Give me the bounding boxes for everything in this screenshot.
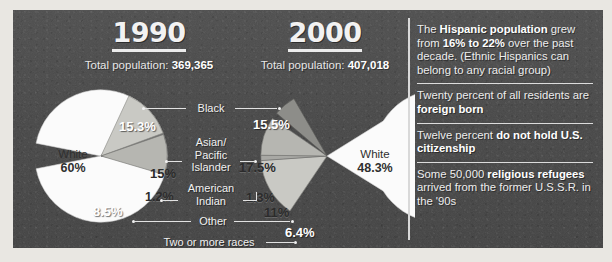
fact-religious-refugees: Some 50,000 religious refugees arrived f… xyxy=(417,162,593,215)
fact-text: The xyxy=(417,23,440,35)
pie-1990-american-indian-value: 1.2% xyxy=(145,191,174,204)
pie-2000-asian-value: 17.5% xyxy=(239,161,276,174)
fact-hispanic-population: The Hispanic population grew from 16% to… xyxy=(417,18,593,83)
american-indian-label-line1: American xyxy=(188,182,234,194)
leader-asian-right xyxy=(240,161,254,162)
pie-2000-white-label: White 48.3% xyxy=(339,148,411,175)
fact-text: Twelve percent xyxy=(417,129,496,141)
pie-2000-white-value: 48.3% xyxy=(357,161,392,175)
pie-1990-white-name: White xyxy=(58,148,87,160)
category-label-asian-pacific-islander: Asian/ Pacific Islander xyxy=(182,136,240,174)
pie-1990-black-value: 15.3% xyxy=(119,120,156,133)
leader-black-right xyxy=(235,108,277,109)
fact-text: arrived from the former U.S.S.R. in the … xyxy=(417,181,591,207)
pie-1990-asian-value: 15% xyxy=(150,167,176,180)
leader-american-indian-right xyxy=(243,200,257,201)
leader-other-right xyxy=(234,221,290,222)
leader-dot-other-right xyxy=(291,220,294,223)
pie-2000-other-value: 11% xyxy=(264,206,289,219)
category-label-black: Black xyxy=(191,102,231,115)
fact-emphasis: 16% to 22% xyxy=(443,37,505,49)
leader-asian-left xyxy=(168,161,182,162)
fact-emphasis: Hispanic population xyxy=(440,23,548,35)
sidebar-divider xyxy=(408,18,410,240)
fact-foreign-born: Twenty percent of all residents are fore… xyxy=(417,83,593,122)
two-or-more-label-text: Two or more races xyxy=(163,236,254,248)
leader-dot-asian-left xyxy=(165,160,168,163)
category-label-other: Other xyxy=(194,215,232,228)
leader-american-indian-left xyxy=(163,200,178,201)
pie-1990-white-value: 60% xyxy=(60,161,85,175)
header-1990: 1990 Total population: 369,365 xyxy=(59,18,239,72)
other-label-text: Other xyxy=(199,215,227,227)
year-title-2000: 2000 xyxy=(235,18,415,48)
pie-2000-black-value: 15.5% xyxy=(253,118,290,131)
pie-2000-white-name: White xyxy=(360,148,389,160)
asian-label-line1: Asian/ xyxy=(196,136,227,148)
year-title-1990: 1990 xyxy=(59,18,239,48)
leader-dot-black-right xyxy=(278,107,281,110)
year-underline-1990 xyxy=(112,49,186,52)
leader-american-indian-right-drop xyxy=(256,192,257,201)
fact-emphasis: religious refugees xyxy=(487,168,584,180)
fact-no-citizenship: Twelve percent do not hold U.S. citizens… xyxy=(417,123,593,162)
asian-label-line2: Pacific xyxy=(195,149,227,161)
pie-2000-two-or-more-value: 6.4% xyxy=(285,226,315,239)
asian-label-line3: Islander xyxy=(191,161,230,173)
category-label-two-or-more-races: Two or more races xyxy=(154,236,264,248)
leader-dot-other-left xyxy=(132,220,135,223)
pie-2000-american-indian-value: 1.3% xyxy=(246,192,275,205)
leader-dot-asian-right xyxy=(254,160,257,163)
header-2000: 2000 Total population: 407,018 xyxy=(235,18,415,72)
pie-1990-white-label: White 60% xyxy=(37,148,109,175)
leader-black-left xyxy=(144,108,186,109)
fact-text: Some 50,000 xyxy=(417,168,487,180)
fact-text: Twenty percent of all residents are xyxy=(417,89,589,101)
dark-panel: 1990 Total population: 369,365 2000 Tota… xyxy=(13,10,603,248)
sidebar-facts: The Hispanic population grew from 16% to… xyxy=(417,18,593,215)
leader-dot-american-indian-left xyxy=(160,199,163,202)
fact-emphasis: foreign born xyxy=(417,103,484,115)
american-indian-label-line2: Indian xyxy=(196,195,226,207)
leader-dot-black-left xyxy=(142,107,145,110)
pie-1990-other-value: 8.5% xyxy=(93,205,123,218)
leader-other-left xyxy=(135,221,191,222)
leader-dot-two-or-more xyxy=(294,241,297,244)
infographic-root: 1990 Total population: 369,365 2000 Tota… xyxy=(0,0,612,262)
category-label-american-indian: American Indian xyxy=(179,182,243,207)
leader-two-or-more-right xyxy=(266,242,294,243)
year-underline-2000 xyxy=(288,49,362,52)
